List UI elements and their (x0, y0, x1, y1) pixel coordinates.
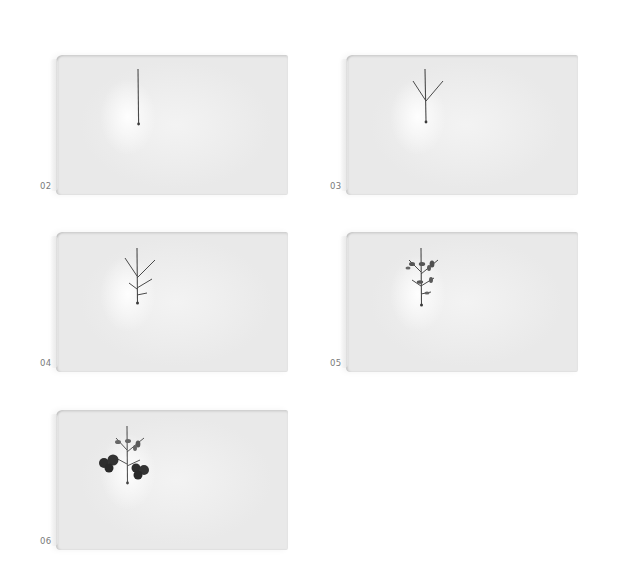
panel-03: 03 (330, 55, 578, 195)
watercolor-paper (56, 232, 288, 372)
branch-drawing (400, 67, 460, 137)
step-label: 06 (40, 536, 51, 546)
watercolor-paper (56, 55, 288, 195)
step-label: 05 (330, 358, 341, 368)
leaf-sprig-drawing (388, 246, 448, 316)
panel-05: 05 (330, 232, 578, 372)
watercolor-paper (56, 410, 288, 550)
leaf-cluster-drawing (94, 424, 154, 494)
step-label: 02 (40, 181, 51, 191)
panel-02: 02 (40, 55, 288, 195)
panel-06: 06 (40, 410, 288, 550)
watercolor-paper (346, 232, 578, 372)
panel-04: 04 (40, 232, 288, 372)
step-label: 03 (330, 181, 341, 191)
watercolor-paper (346, 55, 578, 195)
step-label: 04 (40, 358, 51, 368)
branch-drawing (102, 246, 162, 316)
stem-drawing (108, 67, 168, 137)
